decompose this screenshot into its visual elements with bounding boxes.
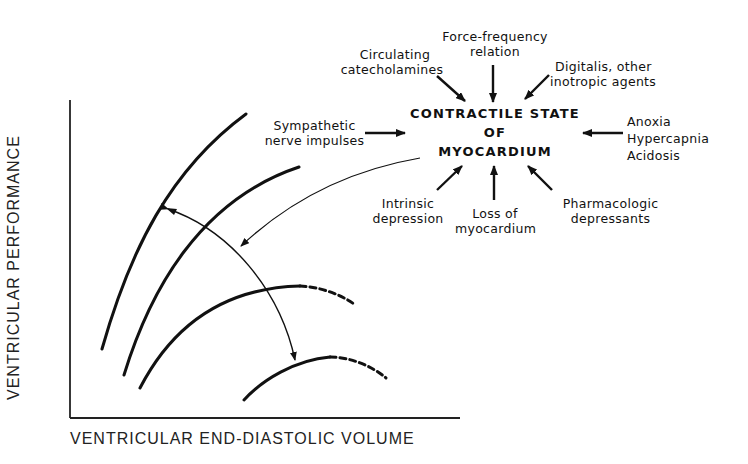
curve-1: [102, 114, 246, 349]
contractile-state-label: CONTRACTILE STATE OF MYOCARDIUM: [400, 104, 590, 161]
label-pharmacologic: Pharmacologic depressants: [553, 196, 668, 226]
label-line: Hypercapnia: [627, 130, 709, 147]
label-line: catecholamines: [334, 62, 450, 77]
label-line: Circulating: [340, 47, 450, 62]
label-sympathetic: Sympathetic nerve impulses: [262, 118, 367, 148]
label-intrinsic: Intrinsic depression: [368, 196, 448, 226]
label-line: Pharmacologic: [553, 196, 668, 211]
label-line: Force-frequency: [430, 29, 560, 44]
x-axis-label: VENTRICULAR END-DIASTOLIC VOLUME: [70, 430, 415, 448]
curve-2: [124, 167, 299, 375]
label-line: nerve impulses: [262, 133, 367, 148]
label-line: depression: [368, 211, 448, 226]
label-catecholamines: Circulating catecholamines: [340, 47, 450, 77]
label-line: Sympathetic: [262, 118, 367, 133]
label-line: Loss of: [455, 206, 535, 221]
label-line: depressants: [553, 211, 668, 226]
label-line: Digitalis, other: [550, 59, 656, 74]
label-line: Acidosis: [627, 147, 709, 164]
arrow-digitalis: [525, 75, 549, 99]
label-line: inotropic agents: [550, 74, 656, 89]
label-loss: Loss of myocardium: [455, 206, 535, 236]
y-axis-label: VENTRICULAR PERFORMANCE: [5, 135, 23, 400]
arrow-intrinsic: [437, 166, 462, 190]
label-line: Anoxia: [627, 113, 709, 130]
label-digitalis: Digitalis, other inotropic agents: [550, 59, 656, 89]
curve-3-dashed: [300, 286, 354, 304]
curve-4-solid: [244, 357, 330, 400]
shift-arrow-start-head: [166, 208, 177, 215]
performance-curves: [102, 114, 386, 400]
arrow-pharmacologic: [528, 166, 552, 190]
label-anoxia: Anoxia Hypercapnia Acidosis: [627, 113, 709, 164]
curve-4-dashed: [330, 357, 386, 378]
center-line-3: MYOCARDIUM: [400, 142, 590, 161]
center-line-1: CONTRACTILE STATE: [400, 104, 590, 123]
shift-double-arrow: [168, 209, 295, 360]
arrow-catecholamines: [437, 76, 465, 101]
label-line: myocardium: [455, 221, 535, 236]
curve-3-solid: [140, 286, 300, 388]
label-line: Intrinsic: [368, 196, 448, 211]
center-line-2: OF: [400, 123, 590, 142]
